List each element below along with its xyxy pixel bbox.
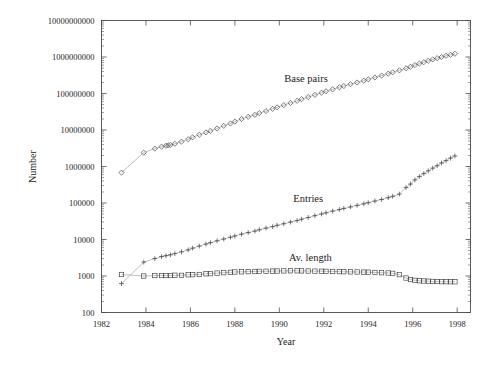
data-point [164,253,169,258]
data-point [444,158,449,163]
data-point [264,226,269,231]
data-point [430,166,435,171]
data-point [373,199,378,204]
data-point [246,230,251,235]
data-point [312,213,317,218]
x-tick-label: 1994 [360,319,378,329]
y-tick-label: 1000 [78,271,95,281]
data-point [208,240,213,245]
data-point [448,156,453,161]
data-point [379,197,384,202]
series-av-length [119,269,457,284]
data-point [453,154,458,159]
x-axis-title: Year [277,336,296,347]
data-point [439,161,444,166]
series-annotation-base-pairs: Base pairs [284,73,327,84]
x-tick-label: 1990 [271,319,288,329]
data-point [295,218,300,223]
x-tick-label: 1982 [93,319,110,329]
data-point [452,51,457,56]
data-point [355,203,360,208]
y-axis-title: Number [27,149,38,182]
series-entries [119,154,457,286]
x-tick-label: 1988 [226,319,243,329]
data-point [239,232,244,237]
data-point [299,217,304,222]
data-point [426,168,431,173]
data-point [288,220,293,225]
data-point [275,223,280,228]
data-point [270,224,275,229]
y-tick-label: 1000000 [65,162,95,172]
data-point [341,206,346,211]
chart-container: 1001000100001000001000000100000001000000… [0,0,493,371]
series-base-pairs [119,51,458,175]
series-annotation-av-length: Av. length [289,252,333,263]
data-point [366,200,371,205]
data-point [252,229,257,234]
data-point [435,163,440,168]
data-point [390,194,395,199]
x-tick-label: 1998 [449,319,466,329]
y-tick-label: 100 [82,308,95,318]
series-annotation-entries: Entries [293,193,323,204]
data-point [168,252,173,257]
x-tick-label: 1984 [137,319,155,329]
data-point [306,215,311,220]
series-line [122,156,455,284]
y-tick-label: 100000 [69,198,95,208]
data-point [348,205,353,210]
data-point [330,209,335,214]
data-point [197,244,202,249]
data-point [190,246,195,251]
data-point [281,221,286,226]
data-point [361,201,366,206]
y-tick-label: 10000 [73,235,94,245]
data-point [386,195,391,200]
x-tick-label: 1996 [404,319,421,329]
data-point [417,174,422,179]
y-tick-label: 1000000000 [52,52,95,62]
series-line [122,54,455,173]
data-point [172,251,177,256]
y-tick-label: 100000000 [56,89,94,99]
data-point [324,210,329,215]
data-point [159,254,164,259]
data-point [152,256,157,261]
x-tick-label: 1986 [182,319,199,329]
log-scale-line-chart: 1001000100001000001000000100000001000000… [0,0,493,371]
y-tick-label: 10000000 [61,125,95,135]
data-point [319,212,324,217]
data-point [421,171,426,176]
data-point [337,207,342,212]
data-point [179,249,184,254]
data-point [186,247,191,252]
x-tick-label: 1992 [315,319,332,329]
data-point [228,235,233,240]
data-point [221,237,226,242]
y-tick-label: 10000000000 [48,16,95,26]
data-point [257,227,262,232]
data-point [215,238,220,243]
data-point [204,242,209,247]
data-point [232,234,237,239]
